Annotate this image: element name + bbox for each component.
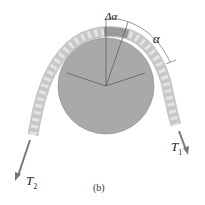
figure-caption: (b) (93, 182, 105, 193)
t2-arrow-shaft (18, 140, 30, 176)
t2-label: T2 (26, 174, 37, 191)
t2-arrow-head (15, 172, 21, 181)
alpha-tick (166, 60, 176, 64)
delta-alpha-label: Δα (105, 11, 117, 22)
belt-friction-diagram: Δα α T1 T2 (b) (0, 0, 205, 205)
t1-arrow-head (183, 146, 189, 155)
t1-label: T1 (171, 140, 182, 157)
alpha-label: α (153, 32, 160, 45)
